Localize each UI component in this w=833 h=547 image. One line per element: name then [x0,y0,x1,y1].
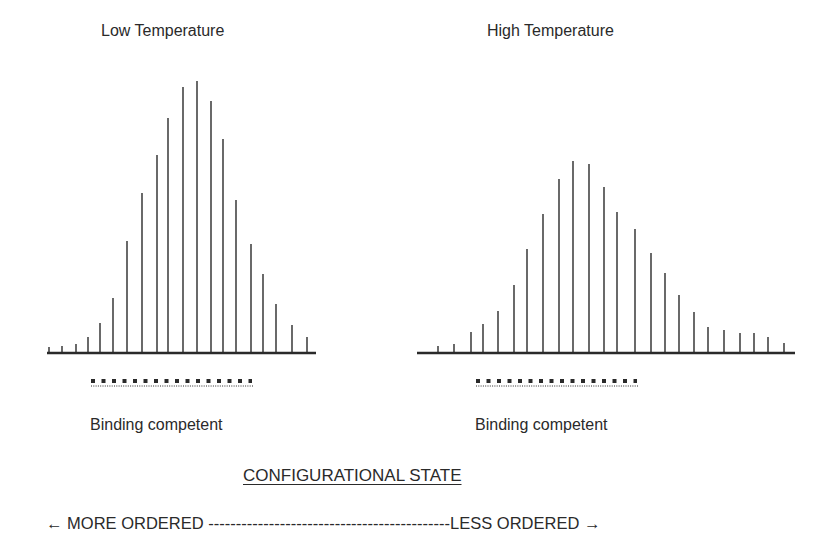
binding-competent-label-right: Binding competent [475,416,608,434]
low-temperature-spectrum [47,81,316,386]
binding-competent-label-left: Binding competent [90,416,223,434]
order-direction-axis: ← MORE ORDERED -------------------------… [46,514,600,533]
x-axis-title: CONFIGURATIONAL STATE [243,466,462,486]
high-temperature-spectrum [417,161,795,386]
stick-spectra-plot [0,0,833,547]
